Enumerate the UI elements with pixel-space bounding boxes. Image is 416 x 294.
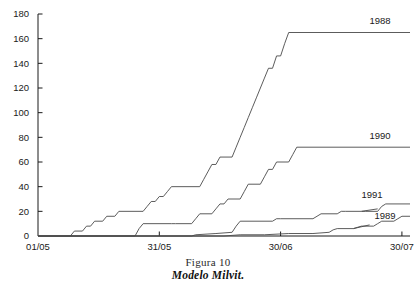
- x-axis-tick-labels: 01/0531/0530/0630/07: [26, 241, 414, 252]
- series-label-1990: 1990: [369, 130, 390, 141]
- x-tick-label: 31/05: [147, 241, 171, 252]
- y-tick-label: 80: [18, 132, 29, 143]
- series-label-1991: 1991: [361, 189, 382, 200]
- leader-1989: [353, 225, 369, 229]
- series-line-1991: [38, 204, 410, 236]
- y-tick-label: 0: [24, 230, 29, 241]
- y-tick-label: 100: [13, 107, 29, 118]
- series-labels-group: 1988199019911989: [353, 15, 395, 229]
- line-chart: 020406080100120140160180 01/0531/0530/06…: [0, 0, 416, 294]
- y-tick-label: 40: [18, 181, 29, 192]
- series-label-1989: 1989: [374, 210, 395, 221]
- x-tick-label: 30/06: [269, 241, 293, 252]
- x-tick-label: 01/05: [26, 241, 50, 252]
- y-tick-label: 60: [18, 156, 29, 167]
- figure-caption: Figura 10 Modelo Milvit.: [0, 256, 416, 283]
- y-tick-label: 180: [13, 8, 29, 19]
- x-tick-label: 30/07: [390, 241, 414, 252]
- y-tick-label: 20: [18, 206, 29, 217]
- y-tick-label: 120: [13, 82, 29, 93]
- series-lines-group: [38, 33, 410, 237]
- series-label-1988: 1988: [369, 15, 390, 26]
- y-tick-label: 140: [13, 58, 29, 69]
- y-axis-tick-labels: 020406080100120140160180: [13, 8, 29, 241]
- chart-axes: [38, 14, 410, 236]
- figure-container: 020406080100120140160180 01/0531/0530/06…: [0, 0, 416, 294]
- series-line-1988: [38, 33, 410, 237]
- y-tick-label: 160: [13, 33, 29, 44]
- y-axis-tick-marks: [38, 14, 43, 211]
- caption-figure-number: Figura 10: [0, 256, 416, 269]
- caption-title: Modelo Milvit.: [0, 269, 416, 283]
